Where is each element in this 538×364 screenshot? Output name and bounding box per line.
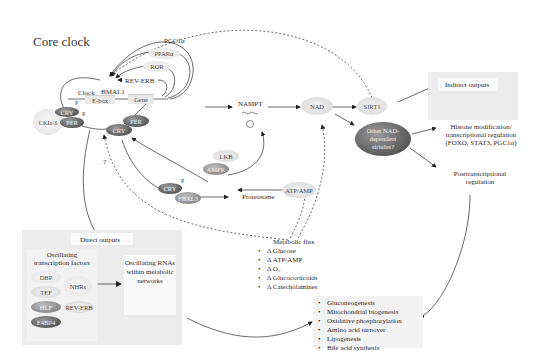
processes-list: Gluconeogenesis Mitochondrial biogenesis… — [318, 299, 402, 353]
ppara-label: PPARα — [154, 50, 173, 57]
process-item: Mitochondrial biogenesis — [318, 308, 402, 317]
hlf-node: HLF — [31, 301, 61, 313]
ebox-label: E-box — [92, 97, 108, 104]
lkb-node: LKB — [213, 150, 239, 162]
core-clock-title: Core clock — [33, 34, 90, 50]
ebox-element: E-box — [85, 95, 115, 104]
process-item: Gluconeogenesis — [318, 299, 402, 308]
posttranscriptional-label: Posttranscriptional regulation — [440, 170, 520, 186]
dbp-label: DBP — [40, 274, 53, 281]
hlf-label: HLF — [40, 304, 52, 311]
e4bp4-label: E4BP4 — [37, 319, 55, 326]
phospho-label-cry: P — [75, 100, 78, 106]
e4bp4-node: E4BP4 — [31, 316, 61, 328]
cry-label: CRY — [112, 127, 125, 134]
per-label: PER — [66, 119, 78, 126]
phospho-label-per: P — [82, 111, 85, 117]
nhrs-node: NHRs — [64, 276, 92, 296]
nad-node: NAD — [301, 97, 333, 115]
per-phospho-node: PER — [60, 117, 84, 128]
fbxl3-node: FBXL3 — [175, 192, 201, 204]
ck-label: CKIε/δ — [39, 119, 58, 126]
process-item: Amino acid turnover — [318, 326, 402, 335]
phospho-label-cry2: P — [181, 178, 184, 184]
cry-degradation-node: CRY — [158, 183, 182, 194]
atp-amp-node: ATP/AMP — [282, 182, 316, 198]
cry-label: CRY — [163, 185, 176, 192]
sirt1-node: SIRT1 — [357, 97, 387, 115]
ror-label: ROR — [150, 63, 163, 70]
rev-erb-label: REV-ERB — [125, 77, 154, 85]
flux-item: Δ O₂ — [258, 265, 318, 274]
ampk-node: AMPK — [203, 163, 229, 175]
tf-to-rna-arrow — [98, 280, 122, 288]
process-item: Oxidative phosphorylation — [318, 317, 402, 326]
atp-amp-label: ATP/AMP — [285, 187, 312, 194]
nampt-label: NAMPT — [238, 100, 263, 108]
cry-node: CRY — [106, 124, 132, 136]
metabolic-flux-list: Δ Glucose Δ ATP/AMP Δ O₂ Δ Glucocorticoi… — [258, 247, 318, 292]
cry-phospho-node: CRY — [55, 107, 79, 117]
reverb-label: REV-ERB — [65, 304, 92, 311]
tef-label: TEF — [40, 289, 52, 296]
cry-label: CRY — [60, 109, 73, 116]
flux-item: Δ ATP/AMP — [258, 256, 318, 265]
tef-node: TEF — [31, 286, 61, 298]
ampk-label: AMPK — [207, 166, 226, 173]
reverb-node: REV-ERB — [64, 301, 94, 313]
per-label: PER — [130, 118, 142, 125]
gene-element: Gene — [128, 94, 154, 104]
flux-item: Δ Glucocorticoids — [258, 274, 318, 283]
rna-label: Oscillating RNAs within metabolic networ… — [124, 259, 176, 286]
pgc1a-label: PGC1α — [164, 37, 185, 45]
flux-item: Δ Catecholamines — [258, 283, 318, 292]
lkb-label: LKB — [220, 153, 233, 160]
direct-outputs-title: Direct outputs — [80, 236, 120, 244]
sirt1-label: SIRT1 — [364, 103, 381, 110]
nad-label: NAD — [310, 103, 324, 110]
ppara-node: PPARα — [148, 48, 180, 59]
question-label: ? — [103, 158, 106, 166]
histone-label: Histone modification/ transcriptional re… — [436, 123, 526, 147]
other-sirtuins-node: Other NAD-dependent sirtuins? — [355, 122, 411, 156]
fbxl3-label: FBXL3 — [178, 195, 198, 202]
tf-title: Oscillating transcription factors — [29, 251, 95, 267]
other-sirtuins-label: Other NAD-dependent sirtuins? — [359, 127, 407, 151]
gene-label: Gene — [134, 96, 148, 103]
metabolic-flux-title: Metabolic flux — [273, 238, 314, 246]
indirect-outputs-title: Indirect outputs — [445, 81, 489, 89]
nhrs-label: NHRs — [70, 283, 86, 290]
ror-node: ROR — [143, 61, 171, 72]
process-item: Bile acid synthesis — [318, 344, 402, 353]
flux-item: Δ Glucose — [258, 247, 318, 256]
process-item: Lipogenesis — [318, 335, 402, 344]
dbp-node: DBP — [31, 271, 61, 283]
proteasome-label: Proteasome — [242, 193, 275, 201]
